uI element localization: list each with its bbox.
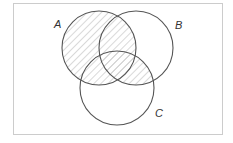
- venn-diagram: A B C: [0, 0, 233, 143]
- set-b-label: B: [175, 19, 182, 31]
- set-a-label: A: [53, 18, 61, 30]
- set-c-label: C: [155, 107, 163, 119]
